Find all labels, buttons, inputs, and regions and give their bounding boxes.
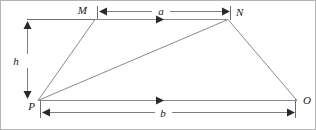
edge-NO — [228, 20, 297, 101]
trapezoid-diagram-canvas: M N O P a b h — [0, 0, 316, 130]
dimension-label-a: a — [158, 5, 164, 17]
dimension-a-arrow-left — [99, 8, 107, 16]
direction-arrow-PO — [156, 97, 164, 105]
dimension-b-arrow-left — [42, 109, 50, 117]
dimension-h-arrow-bottom — [24, 91, 32, 99]
dimension-label-h: h — [13, 55, 19, 67]
dimension-h-arrow-top — [24, 21, 32, 29]
vertex-label-P: P — [27, 100, 35, 112]
vertex-label-M: M — [77, 4, 88, 16]
vertex-label-N: N — [235, 6, 244, 18]
dimension-b-arrow-right — [287, 109, 295, 117]
vertex-label-O: O — [303, 94, 311, 106]
dimension-a-arrow-right — [222, 8, 230, 16]
geometry-figure: M N O P a b h — [0, 0, 316, 130]
dimension-label-b: b — [160, 107, 166, 119]
